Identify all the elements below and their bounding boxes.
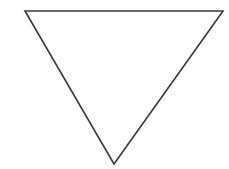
- triangle-diagram: [0, 0, 229, 169]
- inverted-triangle-shape: [25, 11, 223, 164]
- figure-canvas: [0, 0, 229, 169]
